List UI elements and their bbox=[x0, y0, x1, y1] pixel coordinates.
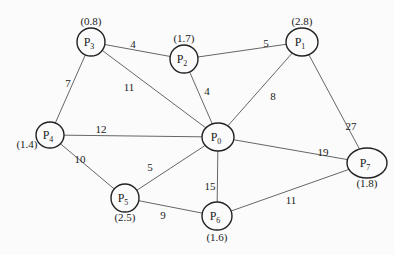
edge-p0-p7 bbox=[218, 137, 367, 163]
node-p2: P2 bbox=[170, 45, 198, 73]
edge-p4-p0 bbox=[50, 135, 218, 137]
node-p6: P6 bbox=[202, 202, 232, 230]
node-p4: P4 bbox=[36, 122, 64, 148]
edge-p6-p7 bbox=[217, 163, 367, 216]
node-values-layer: (2.8)(1.7)(0.8)(1.4)(2.5)(1.6)(1.8) bbox=[16, 15, 377, 244]
edge-weight-label: 10 bbox=[75, 153, 87, 165]
node-value-label: (1.4) bbox=[16, 138, 37, 151]
node-p5: P5 bbox=[111, 184, 139, 212]
edge-p1-p0 bbox=[218, 42, 302, 137]
edge-p2-p1 bbox=[184, 42, 302, 59]
edge-weight-label: 4 bbox=[204, 85, 210, 97]
edge-weight-label: 11 bbox=[286, 194, 297, 206]
edge-weight-label: 8 bbox=[270, 90, 276, 102]
edge-weight-label: 12 bbox=[96, 123, 107, 135]
edge-weight-label: 19 bbox=[318, 146, 330, 158]
node-p1: P1 bbox=[286, 28, 318, 56]
edge-p3-p0 bbox=[91, 42, 218, 137]
node-value-label: (1.7) bbox=[173, 32, 194, 45]
node-p7: P7 bbox=[347, 148, 387, 178]
edge-weight-label: 9 bbox=[160, 209, 166, 221]
edge-weight-label: 4 bbox=[130, 38, 136, 50]
edge-p1-p7 bbox=[302, 42, 367, 163]
node-value-label: (1.6) bbox=[206, 231, 227, 244]
node-value-label: (2.8) bbox=[291, 15, 312, 28]
node-value-label: (2.5) bbox=[114, 211, 135, 224]
node-value-label: (0.8) bbox=[80, 15, 101, 28]
edge-weight-label: 5 bbox=[147, 161, 153, 173]
graph-svg: 457114827121051915911 P0P1P2P3P4P5P6P7 (… bbox=[0, 0, 394, 255]
edge-weight-label: 15 bbox=[205, 180, 217, 192]
edge-weight-label: 27 bbox=[346, 120, 358, 132]
edge-weight-label: 5 bbox=[263, 37, 269, 49]
node-p3: P3 bbox=[77, 28, 105, 56]
graph-diagram: 457114827121051915911 P0P1P2P3P4P5P6P7 (… bbox=[0, 0, 394, 255]
nodes-layer: P0P1P2P3P4P5P6P7 bbox=[36, 28, 387, 230]
node-p0: P0 bbox=[202, 123, 234, 151]
edge-weight-label: 7 bbox=[65, 77, 71, 89]
node-value-label: (1.8) bbox=[356, 177, 377, 190]
edge-weight-label: 11 bbox=[124, 81, 135, 93]
